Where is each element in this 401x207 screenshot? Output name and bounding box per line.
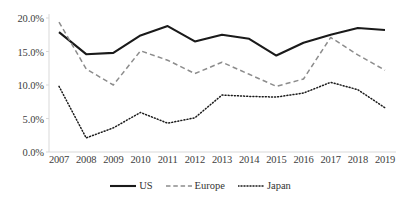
legend-swatch-us-icon bbox=[110, 181, 136, 191]
x-axis: 2007200820092010201120122013201420152016… bbox=[0, 154, 401, 172]
x-tick-label: 2017 bbox=[321, 154, 341, 166]
legend-item-us[interactable]: US bbox=[110, 180, 152, 192]
x-tick-label: 2018 bbox=[348, 154, 368, 166]
legend-item-europe[interactable]: Europe bbox=[166, 180, 225, 192]
x-tick-label: 2009 bbox=[103, 154, 123, 166]
x-tick-label: 2019 bbox=[375, 154, 395, 166]
x-tick-label: 2008 bbox=[76, 154, 96, 166]
x-tick-label: 2016 bbox=[293, 154, 313, 166]
line-chart: 0.0%5.0%10.0%15.0%20.0% 2007200820092010… bbox=[0, 0, 401, 207]
x-tick-label: 2011 bbox=[158, 154, 178, 166]
legend-item-japan[interactable]: Japan bbox=[238, 180, 291, 192]
series-line-europe bbox=[59, 22, 385, 86]
x-tick-label: 2012 bbox=[185, 154, 205, 166]
x-tick-label: 2013 bbox=[212, 154, 232, 166]
series-line-japan bbox=[59, 82, 385, 138]
chart-legend: US Europe Japan bbox=[0, 176, 401, 196]
legend-label-us: US bbox=[139, 180, 152, 192]
x-tick-label: 2010 bbox=[130, 154, 150, 166]
x-tick-label: 2007 bbox=[49, 154, 69, 166]
legend-swatch-japan-icon bbox=[238, 181, 264, 191]
legend-label-japan: Japan bbox=[267, 180, 291, 192]
x-tick-label: 2015 bbox=[266, 154, 286, 166]
legend-label-europe: Europe bbox=[195, 180, 225, 192]
x-tick-label: 2014 bbox=[239, 154, 259, 166]
legend-swatch-europe-icon bbox=[166, 181, 192, 191]
